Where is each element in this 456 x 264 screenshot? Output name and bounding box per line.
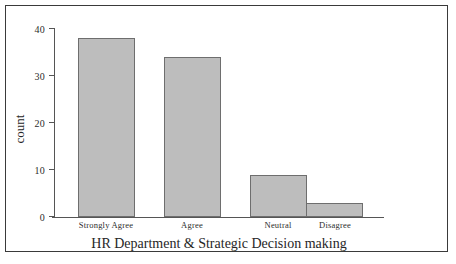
y-tick-label-0: 0 — [40, 211, 45, 222]
y-tick-10: 10 — [49, 169, 54, 170]
x-category-label-neutral: Neutral — [265, 220, 292, 230]
y-tick-20: 20 — [49, 122, 54, 123]
figure-frame: count 40 30 20 10 0 Strongly Agre — [5, 5, 448, 252]
x-category-label-agree: Agree — [181, 220, 203, 230]
y-tick-40: 40 — [49, 28, 54, 29]
x-category-label-strongly-agree: Strongly Agree — [79, 220, 134, 230]
y-tick-0: 0 — [49, 216, 54, 217]
y-axis-line — [54, 28, 55, 217]
x-category-label-disagree: Disagree — [319, 220, 351, 230]
bar-neutral[interactable] — [250, 175, 307, 217]
bar-agree[interactable] — [164, 57, 221, 217]
y-tick-label-10: 10 — [34, 164, 45, 175]
x-axis-title: HR Department & Strategic Decision makin… — [54, 236, 384, 252]
x-axis-line — [52, 217, 384, 218]
plot-area: 40 30 20 10 0 Strongly Agree Agree Neutr… — [54, 24, 384, 217]
y-tick-30: 30 — [49, 75, 54, 76]
y-tick-label-30: 30 — [34, 70, 45, 81]
y-axis-title: count — [12, 94, 28, 164]
bar-disagree[interactable] — [306, 203, 363, 217]
y-tick-label-20: 20 — [34, 117, 45, 128]
y-tick-label-40: 40 — [34, 23, 45, 34]
bar-strongly-agree[interactable] — [78, 38, 135, 217]
bar-chart-figure: count 40 30 20 10 0 Strongly Agre — [0, 0, 456, 264]
